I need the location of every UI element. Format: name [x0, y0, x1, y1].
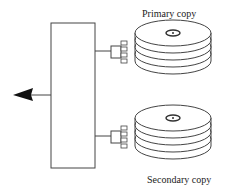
secondary-connector-plug [111, 131, 121, 143]
mirrored-disk-diagram [0, 0, 246, 190]
controller-box [51, 23, 95, 168]
primary-copy-label: Primary copy [142, 8, 196, 19]
primary-connector-plug [111, 46, 121, 58]
secondary-disk-stack [95, 105, 211, 159]
primary-disk-stack [95, 20, 211, 74]
secondary-copy-label: Secondary copy [147, 174, 211, 185]
output-arrow [13, 88, 51, 101]
